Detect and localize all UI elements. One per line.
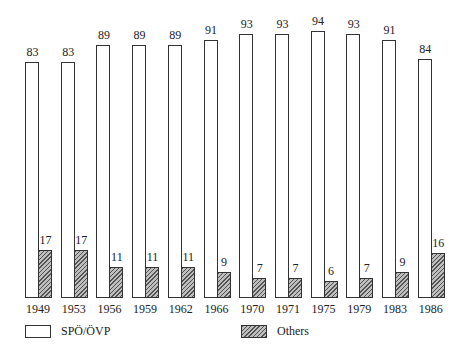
x-tick-label-1956: 1956 xyxy=(91,303,127,315)
value-label-spo-ovp-1959: 89 xyxy=(125,29,155,41)
legend-swatch-spo-ovp xyxy=(25,325,51,338)
x-tick-label-1983: 1983 xyxy=(377,303,413,315)
bar-others-1975 xyxy=(324,281,338,298)
bar-others-1983 xyxy=(395,272,409,298)
value-label-others-1966: 9 xyxy=(209,256,239,268)
value-label-others-1970: 7 xyxy=(245,262,275,274)
value-label-spo-ovp-1953: 83 xyxy=(53,46,83,58)
value-label-spo-ovp-1966: 91 xyxy=(196,24,226,36)
value-label-spo-ovp-1956: 89 xyxy=(89,29,119,41)
bar-others-1966 xyxy=(217,272,231,298)
x-tick-label-1971: 1971 xyxy=(270,303,306,315)
bar-spo-ovp-1975 xyxy=(311,31,325,298)
x-tick-label-1949: 1949 xyxy=(20,303,56,315)
x-tick-label-1959: 1959 xyxy=(127,303,163,315)
bar-spo-ovp-1986 xyxy=(418,59,432,298)
bar-others-1959 xyxy=(145,267,159,298)
bar-spo-ovp-1953 xyxy=(61,62,75,298)
value-label-others-1983: 9 xyxy=(388,256,418,268)
bar-others-1970 xyxy=(252,278,266,298)
x-tick-label-1962: 1962 xyxy=(163,303,199,315)
value-label-others-1971: 7 xyxy=(280,262,310,274)
legend-swatch-others xyxy=(241,325,267,338)
bar-others-1979 xyxy=(359,278,373,298)
x-tick-label-1986: 1986 xyxy=(413,303,449,315)
bar-spo-ovp-1949 xyxy=(25,62,39,298)
bar-others-1949 xyxy=(38,250,52,298)
legend-label-others: Others xyxy=(277,325,309,338)
x-tick-label-1979: 1979 xyxy=(341,303,377,315)
x-tick-label-1966: 1966 xyxy=(199,303,235,315)
value-label-others-1975: 6 xyxy=(316,265,346,277)
value-label-spo-ovp-1979: 93 xyxy=(339,18,369,30)
value-label-spo-ovp-1983: 91 xyxy=(375,24,405,36)
value-label-spo-ovp-1970: 93 xyxy=(232,18,262,30)
bar-others-1953 xyxy=(74,250,88,298)
value-label-spo-ovp-1975: 94 xyxy=(303,15,333,27)
value-label-others-1959: 11 xyxy=(138,251,168,263)
bar-chart: 8317194983171953891119568911195989111962… xyxy=(0,0,464,356)
value-label-spo-ovp-1986: 84 xyxy=(410,43,440,55)
x-tick-label-1970: 1970 xyxy=(234,303,270,315)
bar-spo-ovp-1971 xyxy=(275,34,289,298)
x-tick-label-1975: 1975 xyxy=(306,303,342,315)
bar-others-1971 xyxy=(288,278,302,298)
value-label-others-1949: 17 xyxy=(31,234,61,246)
bar-others-1962 xyxy=(181,267,195,298)
value-label-spo-ovp-1971: 93 xyxy=(267,18,297,30)
value-label-others-1953: 17 xyxy=(66,234,96,246)
bar-others-1986 xyxy=(431,253,445,298)
legend-label-spo-ovp: SPÖ/ÖVP xyxy=(61,325,110,338)
value-label-others-1979: 7 xyxy=(352,262,382,274)
value-label-others-1962: 11 xyxy=(173,251,203,263)
bar-others-1956 xyxy=(109,267,123,298)
bar-spo-ovp-1970 xyxy=(239,34,253,298)
value-label-spo-ovp-1949: 83 xyxy=(18,46,48,58)
value-label-others-1956: 11 xyxy=(102,251,132,263)
value-label-spo-ovp-1962: 89 xyxy=(160,29,190,41)
value-label-others-1986: 16 xyxy=(423,237,453,249)
bar-spo-ovp-1979 xyxy=(346,34,360,298)
x-tick-label-1953: 1953 xyxy=(56,303,92,315)
